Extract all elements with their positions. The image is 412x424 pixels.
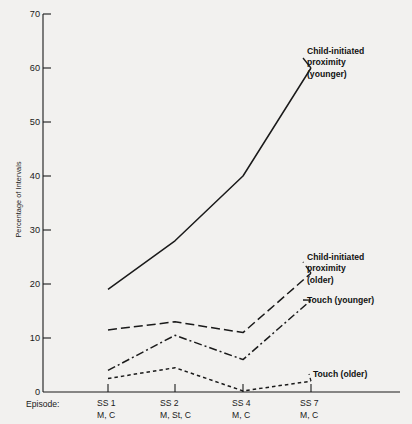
series-line-0 <box>108 68 311 289</box>
series-line-1 <box>108 273 311 332</box>
y-tick-marks <box>43 14 51 338</box>
series-line-3 <box>108 368 311 391</box>
chart-figure: Percentage of Intervals 70 60 50 40 30 2… <box>0 0 412 424</box>
series-line-2 <box>108 300 311 370</box>
series-group <box>108 58 311 391</box>
series-leader-3 <box>309 374 311 381</box>
series-leader-1 <box>303 262 311 273</box>
series-leader-0 <box>303 58 311 68</box>
plot-area <box>0 0 412 424</box>
